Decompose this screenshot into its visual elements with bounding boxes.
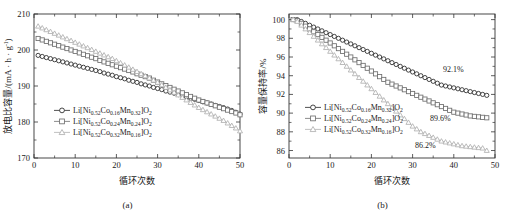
- data-point: [184, 93, 188, 97]
- data-point: [328, 32, 332, 36]
- legend-label: Li[Ni0.52Co0.32Mn0.16]O2: [73, 128, 152, 138]
- data-point: [415, 72, 419, 76]
- data-point: [402, 66, 406, 70]
- data-point: [94, 68, 98, 72]
- data-point: [406, 68, 410, 72]
- data-point: [431, 101, 435, 105]
- y-tick-label: 190: [17, 81, 30, 91]
- data-point: [81, 52, 85, 56]
- data-point: [40, 38, 44, 42]
- data-point: [390, 82, 394, 86]
- data-point: [443, 84, 447, 88]
- data-point: [357, 46, 361, 50]
- data-point: [382, 57, 386, 61]
- data-point: [460, 112, 464, 116]
- data-point: [361, 47, 365, 51]
- data-point: [320, 29, 324, 33]
- data-point: [464, 89, 468, 93]
- data-point: [419, 95, 423, 99]
- data-point: [472, 114, 476, 118]
- data-point: [143, 83, 147, 87]
- data-point: [373, 53, 377, 57]
- y-axis-title-group: 容量保持率/%: [257, 58, 268, 114]
- x-tick-label: 20: [112, 160, 121, 170]
- data-point: [452, 86, 456, 90]
- data-point: [443, 106, 447, 110]
- chart-panel-b: 0102030405086889092949698100Li[Ni0.52Co0…: [255, 0, 510, 211]
- data-point: [197, 98, 201, 102]
- data-point: [456, 87, 460, 91]
- data-point: [390, 61, 394, 65]
- data-point: [53, 58, 57, 62]
- data-point: [147, 84, 151, 88]
- data-point: [106, 61, 110, 65]
- data-point: [73, 49, 77, 53]
- x-tick-label: 0: [287, 160, 291, 170]
- legend-label: Li[Ni0.52Co0.24Mn0.24]O2: [324, 114, 403, 124]
- data-point: [353, 44, 357, 48]
- y-tick-label: 180: [17, 117, 30, 127]
- legend-marker-triangle: [54, 130, 70, 135]
- legend-marker-triangle: [305, 127, 321, 132]
- data-point: [435, 81, 439, 85]
- x-tick-label: 50: [491, 160, 500, 170]
- data-point: [94, 57, 98, 61]
- data-point: [102, 71, 106, 75]
- panel-a-caption: (a): [0, 200, 255, 210]
- retention-label: 89.6%: [430, 114, 451, 123]
- data-point: [411, 91, 415, 95]
- data-point: [427, 77, 431, 81]
- x-tick-label: 0: [32, 160, 36, 170]
- data-point: [386, 59, 390, 63]
- retention-label: 92.1%: [443, 65, 464, 74]
- data-point: [226, 108, 230, 112]
- data-point: [460, 88, 464, 92]
- legend-label: Li[Ni0.52Co0.24Mn0.24]O2: [73, 117, 152, 127]
- data-point: [139, 82, 143, 86]
- y-tick-label: 170: [17, 153, 30, 163]
- data-point: [456, 111, 460, 115]
- data-point: [382, 77, 386, 81]
- data-point: [336, 36, 340, 40]
- data-point: [349, 55, 353, 59]
- data-point: [48, 57, 52, 61]
- x-tick-label: 30: [408, 160, 417, 170]
- data-point: [485, 93, 489, 97]
- data-point: [65, 61, 69, 65]
- data-point: [324, 38, 328, 42]
- data-point: [406, 90, 410, 94]
- data-point: [353, 58, 357, 62]
- data-point: [386, 80, 390, 84]
- data-point: [213, 104, 217, 108]
- data-point: [77, 64, 81, 68]
- data-point: [85, 54, 89, 58]
- data-point: [476, 115, 480, 119]
- x-tick-label: 40: [450, 160, 459, 170]
- data-point: [110, 73, 114, 77]
- y-tick-label: 90: [277, 108, 286, 118]
- x-tick-label: 10: [71, 160, 80, 170]
- data-point: [238, 113, 242, 117]
- data-point: [131, 79, 135, 83]
- data-point: [57, 44, 61, 48]
- data-point: [452, 110, 456, 114]
- data-point: [316, 27, 320, 31]
- legend-marker-square: [305, 116, 321, 121]
- data-point: [118, 76, 122, 80]
- data-point: [423, 75, 427, 79]
- legend-label: Li[Ni0.52Co0.32Mn0.16]O2: [324, 125, 403, 135]
- data-point: [378, 75, 382, 79]
- data-point: [53, 42, 57, 46]
- data-point: [476, 91, 480, 95]
- figure-container: 01020304050170180190200210Li[Ni0.52Co0.1…: [0, 0, 510, 211]
- data-point: [85, 66, 89, 70]
- y-tick-label: 86: [277, 146, 286, 156]
- data-point: [123, 77, 127, 81]
- x-tick-label: 40: [195, 160, 204, 170]
- data-point: [427, 99, 431, 103]
- data-point: [106, 72, 110, 76]
- data-point: [448, 85, 452, 89]
- data-point: [324, 31, 328, 35]
- data-point: [36, 53, 40, 57]
- data-point: [69, 62, 73, 66]
